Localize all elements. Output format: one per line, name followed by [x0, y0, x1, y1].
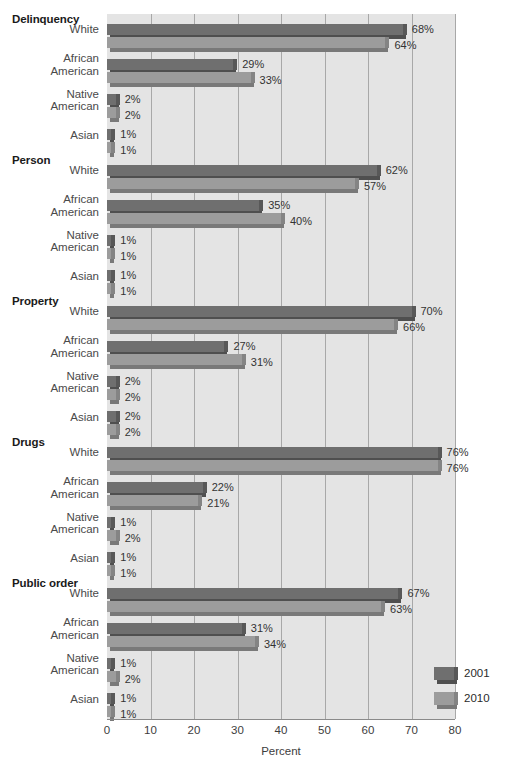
bar-wrap — [107, 623, 242, 634]
bar-value-label: 57% — [364, 181, 386, 192]
bar-drugs-native-american-2010 — [107, 530, 116, 541]
bar-value-label: 1% — [120, 286, 136, 297]
bar-wrap — [107, 706, 111, 717]
bar-value-label: 76% — [447, 463, 469, 474]
bar-person-african-american-2010 — [107, 213, 281, 224]
bar-value-label: 40% — [290, 216, 312, 227]
category-label-asian: Asian — [0, 552, 103, 565]
bar-delinquency-african-american-2001 — [107, 59, 233, 70]
bar-wrap — [107, 142, 111, 153]
bar-wrap — [107, 72, 251, 83]
bar-value-label: 2% — [125, 376, 141, 387]
bar-property-white-2010 — [107, 319, 394, 330]
bar-drugs-white-2001 — [107, 447, 438, 458]
bar-value-label: 2% — [125, 392, 141, 403]
bar-value-label: 1% — [120, 517, 136, 528]
bar-public-order-white-2010 — [107, 601, 381, 612]
bar-value-label: 1% — [120, 270, 136, 281]
bar-person-native-american-2001 — [107, 235, 111, 246]
category-label-native-american: NativeAmerican — [0, 229, 103, 254]
bar-person-asian-2010 — [107, 283, 111, 294]
bar-person-white-2010 — [107, 178, 355, 189]
bar-property-native-american-2010 — [107, 389, 116, 400]
x-tick-label-50: 50 — [310, 724, 340, 736]
bar-value-label: 2% — [125, 94, 141, 105]
bar-wrap — [107, 601, 381, 612]
bar-person-african-american-2001 — [107, 200, 259, 211]
bar-wrap — [107, 213, 281, 224]
bar-public-order-native-american-2010 — [107, 671, 116, 682]
x-tick-label-80: 80 — [440, 724, 470, 736]
bar-value-label: 35% — [268, 200, 290, 211]
bar-property-asian-2001 — [107, 411, 116, 422]
bar-wrap — [107, 671, 116, 682]
bar-wrap — [107, 495, 198, 506]
bar-wrap — [107, 283, 111, 294]
bar-public-order-asian-2010 — [107, 706, 111, 717]
bar-value-label: 21% — [207, 498, 229, 509]
bar-value-label: 33% — [260, 75, 282, 86]
bar-wrap — [107, 341, 224, 352]
bar-delinquency-white-2010 — [107, 37, 385, 48]
bar-public-order-native-american-2001 — [107, 658, 111, 669]
legend-label-2001: 2001 — [464, 667, 490, 679]
bar-wrap — [107, 636, 255, 647]
category-label-asian: Asian — [0, 411, 103, 424]
bar-wrap — [107, 178, 355, 189]
bar-wrap — [107, 200, 259, 211]
bar-value-label: 66% — [403, 322, 425, 333]
bar-delinquency-asian-2010 — [107, 142, 111, 153]
bar-wrap — [107, 389, 116, 400]
bar-value-label: 1% — [120, 658, 136, 669]
category-label-african-american: AfricanAmerican — [0, 475, 103, 500]
bar-property-asian-2010 — [107, 424, 116, 435]
bar-delinquency-native-american-2001 — [107, 94, 116, 105]
bar-value-label: 2% — [125, 533, 141, 544]
bar-value-label: 1% — [120, 145, 136, 156]
legend-swatch-2001-icon — [434, 667, 454, 680]
bar-wrap — [107, 354, 242, 365]
bar-wrap — [107, 517, 111, 528]
bar-public-order-african-american-2001 — [107, 623, 242, 634]
bar-value-label: 1% — [120, 129, 136, 140]
bar-value-label: 34% — [264, 639, 286, 650]
bar-wrap — [107, 59, 233, 70]
x-tick-label-10: 10 — [136, 724, 166, 736]
category-label-native-american: NativeAmerican — [0, 511, 103, 536]
bar-wrap — [107, 447, 438, 458]
bar-delinquency-native-american-2010 — [107, 107, 116, 118]
category-label-column: DelinquencyWhiteAfricanAmericanNativeAme… — [0, 0, 103, 784]
category-label-asian: Asian — [0, 129, 103, 142]
bar-wrap — [107, 588, 398, 599]
bar-value-label: 1% — [120, 568, 136, 579]
bar-value-label: 70% — [421, 306, 443, 317]
bar-person-native-american-2010 — [107, 248, 111, 259]
bar-value-label: 1% — [120, 235, 136, 246]
bar-property-native-american-2001 — [107, 376, 116, 387]
grouped-bar-chart: 68%64%29%33%2%2%1%1%62%57%35%40%1%1%1%1%… — [0, 0, 518, 784]
bar-wrap — [107, 319, 394, 330]
bar-value-label: 27% — [233, 341, 255, 352]
bar-wrap — [107, 107, 116, 118]
category-label-african-american: AfricanAmerican — [0, 616, 103, 641]
bar-person-asian-2001 — [107, 270, 111, 281]
bar-value-label: 2% — [125, 674, 141, 685]
bar-value-label: 22% — [212, 482, 234, 493]
bar-drugs-african-american-2001 — [107, 482, 203, 493]
category-label-asian: Asian — [0, 270, 103, 283]
bar-wrap — [107, 565, 111, 576]
bar-wrap — [107, 129, 111, 140]
category-label-white: White — [0, 23, 103, 36]
bar-public-order-white-2001 — [107, 588, 398, 599]
bar-wrap — [107, 306, 412, 317]
bar-wrap — [107, 658, 111, 669]
category-label-white: White — [0, 164, 103, 177]
bar-drugs-native-american-2001 — [107, 517, 111, 528]
x-tick-label-20: 20 — [179, 724, 209, 736]
bar-value-label: 2% — [125, 411, 141, 422]
bar-wrap — [107, 94, 116, 105]
bar-delinquency-african-american-2010 — [107, 72, 251, 83]
x-axis-line — [107, 719, 455, 720]
bar-wrap — [107, 235, 111, 246]
bar-wrap — [107, 411, 116, 422]
